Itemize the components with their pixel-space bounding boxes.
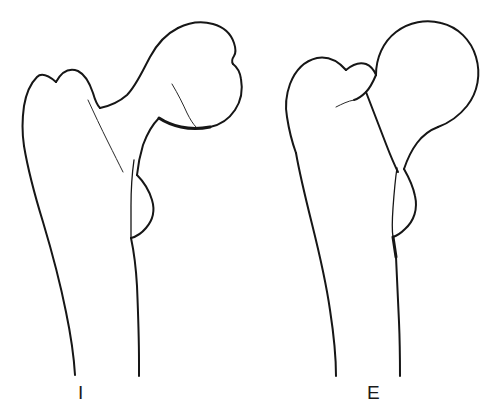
figure-plate: I [0,0,497,419]
medial-cortex-line-internal [131,160,134,238]
panel-label-internal: I [0,382,206,404]
panel-label-external: E [250,382,497,404]
medial-shaft-external [396,257,400,376]
femoral-neck-superior-internal [100,28,178,108]
intertrochanteric-line-external [366,92,398,172]
medial-cortex-line-external [392,168,397,237]
trochanteric-fossa-line-external [336,100,354,107]
lateral-shaft-external [296,153,336,376]
greater-trochanter-outline-external [286,58,346,153]
calcar-inferior-neck-internal [137,118,159,175]
neck-junction-external [354,75,376,100]
femoral-head-dome-internal [178,22,236,64]
femur-drawing-external [250,0,497,419]
trochanteric-fossa-line-internal [88,100,123,172]
femoral-head-inferior-internal [159,118,210,129]
femur-panel-internal: I [0,0,250,419]
lesser-trochanter-external [393,169,416,237]
trochanter-superior-ridge-external [346,63,376,75]
medial-shaft-upper-external [393,237,396,257]
femur-panel-external: E [250,0,497,419]
femur-drawing-internal [0,0,250,419]
trochanter-superior-ridge-internal [56,70,100,108]
greater-trochanter-outline-internal [23,75,57,146]
femoral-head-outline-external [376,21,478,127]
femoral-head-fovea-notch-internal [210,64,242,127]
lateral-shaft-internal [24,146,75,375]
lesser-trochanter-internal [131,175,153,238]
medial-shaft-internal [131,238,139,376]
femoral-head-inferior-external [404,127,438,169]
neck-inner-line-internal [172,84,196,127]
